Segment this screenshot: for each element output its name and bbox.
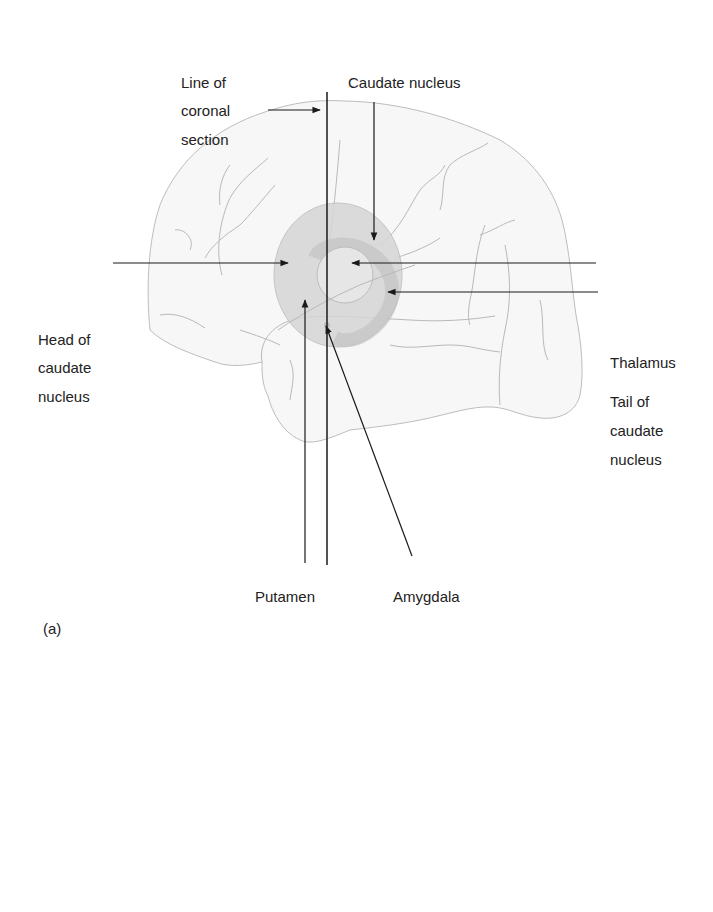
label-putamen: Putamen <box>255 588 315 605</box>
label-head-of-caudate-3: nucleus <box>38 388 90 405</box>
label-amygdala: Amygdala <box>393 588 460 605</box>
label-head-of-caudate-2: caudate <box>38 359 91 376</box>
panel-label-a: (a) <box>43 620 61 637</box>
anatomy-figure: Line of coronal section Caudate nucleus … <box>0 0 713 912</box>
label-head-of-caudate-1: Head of <box>38 331 91 348</box>
label-line-of-coronal-1: Line of <box>181 74 227 91</box>
label-line-of-coronal-2: coronal <box>181 102 230 119</box>
label-tail-of-caudate-3: nucleus <box>610 451 662 468</box>
label-caudate-nucleus: Caudate nucleus <box>348 74 461 91</box>
thalamus-region <box>317 247 373 303</box>
label-thalamus: Thalamus <box>610 354 676 371</box>
panel-a: Line of coronal section Caudate nucleus … <box>38 74 676 637</box>
label-line-of-coronal-3: section <box>181 131 229 148</box>
label-tail-of-caudate-1: Tail of <box>610 393 650 410</box>
label-tail-of-caudate-2: caudate <box>610 422 663 439</box>
